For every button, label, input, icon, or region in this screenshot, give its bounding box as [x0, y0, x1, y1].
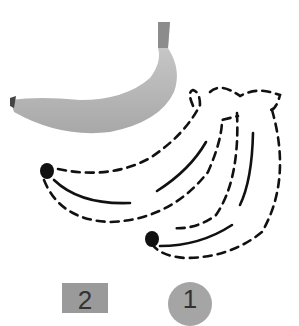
banana-bunch-ridges	[54, 133, 253, 246]
banana-tip-icons	[40, 163, 159, 247]
banana-photo	[10, 22, 177, 133]
square-number: 2	[78, 287, 92, 313]
circle-number: 1	[183, 286, 197, 312]
number-square: 2	[62, 283, 108, 313]
number-circle: 1	[168, 282, 212, 326]
